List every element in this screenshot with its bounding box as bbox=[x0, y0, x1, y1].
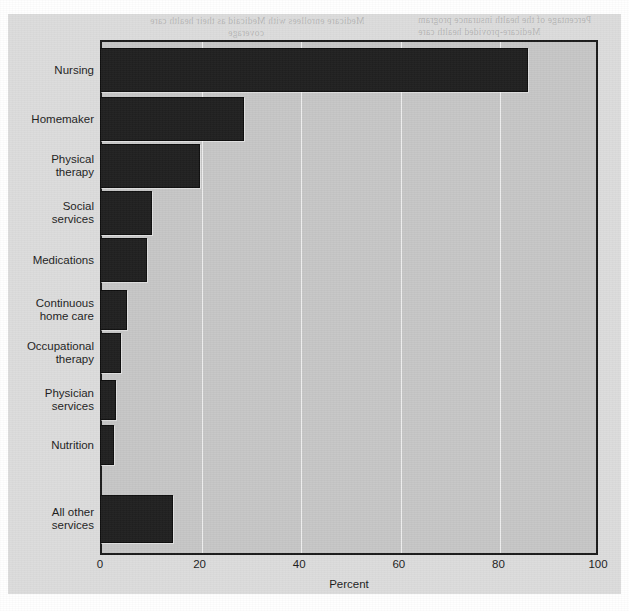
x-tick-80: 80 bbox=[492, 558, 505, 570]
category-label-nutrition: Nutrition bbox=[0, 439, 94, 452]
category-label-nursing: Nursing bbox=[0, 64, 94, 77]
x-axis: Percent 020406080100 bbox=[0, 558, 629, 598]
category-labels: NursingHomemakerPhysical therapySocial s… bbox=[0, 40, 629, 555]
category-label-physical-therapy: Physical therapy bbox=[0, 153, 94, 178]
scanned-page: Medicare enrollees with Medicaid as thei… bbox=[0, 0, 629, 611]
x-tick-100: 100 bbox=[588, 558, 607, 570]
x-tick-60: 60 bbox=[392, 558, 405, 570]
category-label-physician-services: Physician services bbox=[0, 387, 94, 412]
category-label-continuous-home-care: Continuous home care bbox=[0, 297, 94, 322]
category-label-occupational-therapy: Occupational therapy bbox=[0, 340, 94, 365]
x-tick-20: 20 bbox=[193, 558, 206, 570]
horizontal-bar-chart: NursingHomemakerPhysical therapySocial s… bbox=[0, 0, 629, 611]
category-label-homemaker: Homemaker bbox=[0, 113, 94, 126]
x-axis-title: Percent bbox=[329, 578, 369, 590]
category-label-social-services: Social services bbox=[0, 200, 94, 225]
x-tick-0: 0 bbox=[97, 558, 103, 570]
x-tick-40: 40 bbox=[293, 558, 306, 570]
category-label-all-other-services: All other services bbox=[0, 506, 94, 531]
category-label-medications: Medications bbox=[0, 254, 94, 267]
